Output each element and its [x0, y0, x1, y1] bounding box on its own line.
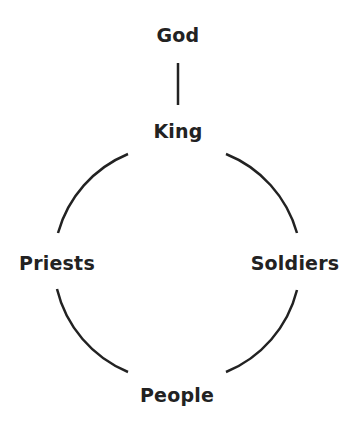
node-people: People	[140, 384, 214, 406]
edge-soldiers-people	[226, 290, 297, 372]
node-soldiers: Soldiers	[251, 252, 340, 274]
diagram-canvas	[0, 0, 356, 421]
node-god: God	[157, 24, 200, 46]
edge-king-soldiers	[226, 154, 297, 233]
node-priests: Priests	[19, 252, 95, 274]
edge-priests-people	[57, 289, 128, 372]
node-king: King	[153, 120, 202, 142]
edge-king-priests	[58, 154, 128, 233]
